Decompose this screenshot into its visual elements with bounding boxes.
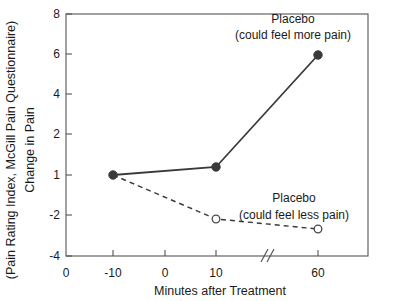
annotation-more-pain-line2: (could feel more pain) (235, 28, 351, 42)
y-tick-label: 2 (53, 127, 60, 141)
x-axis-title: Minutes after Treatment (154, 284, 287, 298)
chart-figure: 8 6 4 2 1 -2 -4 0 -10 0 10 60 (0, 0, 396, 301)
annotation-less-pain: Placebo (could feel less pain) (239, 191, 349, 222)
y-tick-label: -4 (49, 249, 60, 263)
annotation-less-pain-line1: Placebo (272, 191, 316, 205)
data-point-marker (314, 225, 322, 233)
y-axis-ticks (66, 14, 72, 256)
annotation-more-pain-line1: Placebo (271, 12, 315, 26)
y-axis-title-line2: (Pain Rating Index, McGill Pain Question… (4, 21, 18, 279)
data-point-marker (212, 163, 220, 171)
series-more-pain (109, 51, 322, 179)
series-more-pain-line (113, 55, 318, 175)
annotation-less-pain-line2: (could feel less pain) (239, 208, 349, 222)
y-tick-label: -2 (49, 208, 60, 222)
y-axis-tick-labels: 8 6 4 2 1 -2 -4 (49, 7, 60, 263)
chart-canvas: 8 6 4 2 1 -2 -4 0 -10 0 10 60 (0, 0, 396, 301)
annotation-more-pain: Placebo (could feel more pain) (235, 12, 351, 42)
y-tick-label: 8 (53, 7, 60, 21)
x-tick-label: 60 (311, 266, 325, 280)
x-axis-ticks (113, 250, 318, 256)
y-tick-label: 4 (53, 87, 60, 101)
x-tick-label: 0 (63, 266, 70, 280)
x-axis-tick-labels: 0 -10 0 10 60 (63, 266, 325, 280)
y-axis-title-line1: Change in Pain (23, 107, 37, 193)
y-tick-label: 1 (53, 168, 60, 182)
data-point-marker (314, 51, 322, 59)
x-tick-label: -10 (104, 266, 122, 280)
data-point-marker (212, 215, 220, 223)
x-tick-label: 0 (162, 266, 169, 280)
x-tick-label: 10 (209, 266, 223, 280)
y-tick-label: 6 (53, 47, 60, 61)
